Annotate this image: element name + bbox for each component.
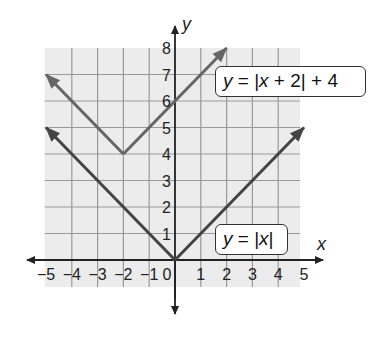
absolute-value-graph: −5−4−3−2−112345012345678yx	[0, 0, 387, 340]
x-tick-label: 4	[274, 266, 283, 283]
x-tick-label: −5	[37, 266, 55, 283]
x-tick-label: 1	[196, 266, 205, 283]
label-text: |	[269, 228, 274, 249]
y-axis-label: y	[180, 14, 192, 34]
x-tick-label: 5	[300, 266, 309, 283]
y-tick-label: 6	[162, 93, 171, 110]
label-text: = |	[233, 228, 260, 249]
label-text: + 2| + 4	[269, 70, 338, 91]
x-axis-label: x	[316, 234, 327, 254]
origin-label: 0	[163, 266, 172, 283]
y-tick-label: 1	[162, 226, 171, 243]
label-x-var: x	[259, 70, 269, 91]
y-tick-label: 2	[162, 199, 171, 216]
y-tick-label: 7	[162, 67, 171, 84]
x-tick-label: 2	[222, 266, 231, 283]
x-tick-label: −4	[63, 266, 81, 283]
y-tick-label: 8	[162, 40, 171, 57]
label-y-var: y	[223, 228, 233, 249]
label-x-var: x	[259, 228, 269, 249]
x-tick-label: −3	[88, 266, 106, 283]
label-y-var: y	[223, 70, 233, 91]
y-tick-label: 3	[162, 173, 171, 190]
x-tick-label: −1	[140, 266, 158, 283]
label-text: = |	[233, 70, 260, 91]
y-tick-label: 4	[162, 146, 171, 163]
equation-label-parent: y = |x|	[215, 224, 288, 255]
x-tick-label: 3	[248, 266, 257, 283]
y-tick-label: 5	[162, 120, 171, 137]
equation-label-shifted: y = |x + 2| + 4	[215, 66, 366, 97]
x-tick-label: −2	[114, 266, 132, 283]
